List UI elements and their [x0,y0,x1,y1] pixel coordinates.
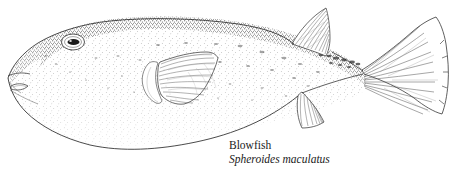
caption: Blowfish Spheroides maculatus [229,139,330,166]
pupil [68,39,80,45]
scientific-name-label: Spheroides maculatus [229,153,330,167]
blowfish-illustration [0,0,451,179]
common-name-label: Blowfish [229,139,330,153]
caudal-fin [362,17,448,114]
illustration-page: Blowfish Spheroides maculatus [0,0,451,179]
